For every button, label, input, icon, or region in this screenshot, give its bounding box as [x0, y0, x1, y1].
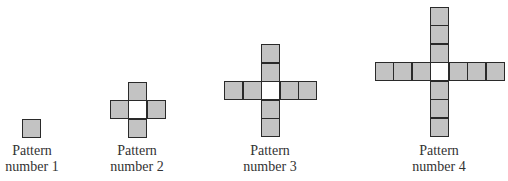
pattern-4-label-line1: Pattern — [399, 143, 479, 159]
pattern-4-square — [430, 44, 449, 63]
pattern-2-square — [147, 100, 166, 119]
pattern-3-label-line1: Pattern — [230, 143, 310, 159]
pattern-4-label-line2: number 4 — [399, 159, 479, 175]
pattern-4-square — [375, 62, 394, 81]
pattern-3-square — [261, 44, 280, 63]
pattern-2-label-line2: number 2 — [97, 159, 177, 175]
pattern-4-square — [393, 62, 412, 81]
pattern-2-square — [128, 119, 147, 138]
pattern-3-label-line2: number 3 — [230, 159, 310, 175]
pattern-4-square — [430, 99, 449, 118]
pattern-1-label-line1: Pattern — [0, 143, 72, 159]
pattern-4-square — [486, 62, 505, 81]
pattern-4-label: Pattern number 4 — [399, 143, 479, 175]
pattern-3-square — [261, 100, 280, 119]
pattern-2-square — [128, 82, 147, 101]
pattern-3-square — [224, 81, 243, 100]
pattern-3-square — [243, 81, 262, 100]
pattern-3-label: Pattern number 3 — [230, 143, 310, 175]
pattern-2-center-square — [128, 100, 147, 119]
pattern-4-square — [430, 7, 449, 26]
pattern-4-square — [430, 25, 449, 44]
pattern-1-square — [22, 119, 41, 138]
pattern-3-square — [261, 63, 280, 82]
pattern-4-square — [449, 62, 468, 81]
pattern-2-square — [110, 100, 129, 119]
pattern-3-square — [261, 118, 280, 137]
pattern-4-square — [467, 62, 486, 81]
pattern-3-square — [280, 81, 299, 100]
pattern-4-square — [430, 118, 449, 137]
pattern-1-label-line2: number 1 — [0, 159, 72, 175]
pattern-2-label: Pattern number 2 — [97, 143, 177, 175]
pattern-4-center-square — [430, 62, 449, 81]
pattern-2-label-line1: Pattern — [97, 143, 177, 159]
pattern-3-center-square — [261, 81, 280, 100]
pattern-4-square — [430, 81, 449, 100]
pattern-4-square — [412, 62, 431, 81]
pattern-3-square — [298, 81, 317, 100]
pattern-1-label: Pattern number 1 — [0, 143, 72, 175]
